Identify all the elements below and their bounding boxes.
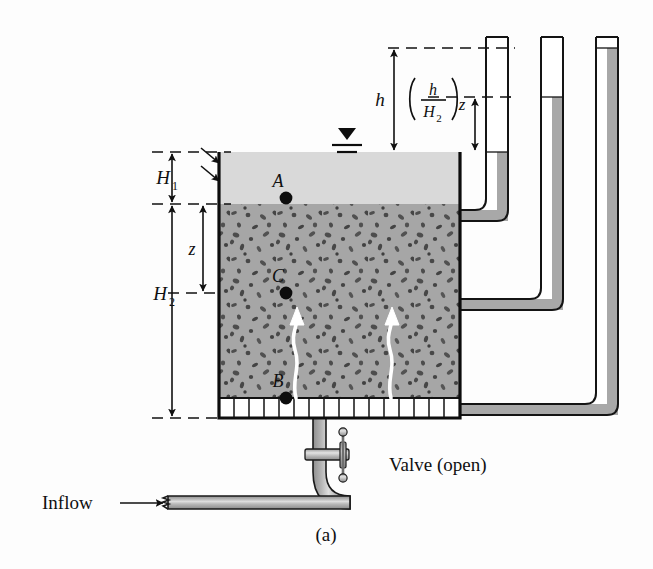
hz-denominator: H bbox=[422, 103, 436, 120]
h1-symbol: H bbox=[155, 167, 171, 188]
h2-subscript: 2 bbox=[169, 295, 175, 309]
point-c-label: C bbox=[272, 266, 285, 286]
free-water-layer bbox=[219, 152, 460, 204]
valve-handwheel-top[interactable] bbox=[339, 428, 347, 436]
hz-multiplier: z bbox=[458, 95, 466, 114]
point-b-dot bbox=[280, 392, 293, 405]
seepage-diagram: A C B h h H 2 z H 1 H 2 z bbox=[0, 0, 653, 569]
hz-numerator: h bbox=[429, 81, 437, 98]
figure-caption: (a) bbox=[315, 524, 336, 546]
point-a-label: A bbox=[272, 171, 285, 191]
point-b-label: B bbox=[273, 371, 284, 391]
dimension-h-label: h bbox=[375, 89, 385, 110]
pipe-horizontal bbox=[168, 496, 350, 509]
valve-handwheel-bottom[interactable] bbox=[339, 474, 347, 482]
dimension-z-label: z bbox=[187, 239, 195, 259]
h1-subscript: 1 bbox=[172, 179, 178, 193]
point-a-dot bbox=[280, 192, 293, 205]
soil-sample bbox=[219, 204, 460, 398]
h2-symbol: H bbox=[152, 283, 168, 304]
inflow-label: Inflow bbox=[42, 492, 93, 513]
figure-container: A C B h h H 2 z H 1 H 2 z bbox=[0, 0, 653, 569]
point-c-dot bbox=[280, 287, 293, 300]
valve-label: Valve (open) bbox=[389, 454, 487, 476]
hz-denominator-sub: 2 bbox=[436, 112, 442, 124]
